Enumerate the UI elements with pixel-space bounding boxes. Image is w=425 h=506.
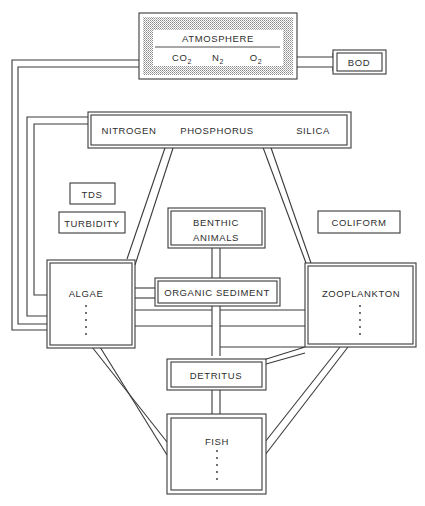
bod-box: BOD (333, 50, 386, 74)
algae-box: ALGAE (47, 260, 135, 348)
coliform-box: COLIFORM (318, 211, 400, 233)
algae-label: ALGAE (69, 288, 104, 299)
bod-label: BOD (348, 57, 370, 68)
ecosystem-diagram: ATMOSPHERE CO2 N2 O2 BOD NITROGEN PHOSPH… (0, 0, 425, 506)
turbidity-box: TURBIDITY (59, 212, 125, 233)
nitrogen-label: NITROGEN (102, 125, 157, 136)
silica-label: SILICA (296, 125, 330, 136)
fish-label: FISH (205, 436, 229, 447)
zooplankton-label: ZOOPLANKTON (322, 288, 400, 299)
detritus-box: DETRITUS (167, 359, 266, 390)
tds-box: TDS (70, 183, 115, 204)
fish-box: FISH (167, 414, 266, 494)
phosphorus-label: PHOSPHORUS (180, 125, 254, 136)
benthic-label: BENTHIC (193, 217, 239, 228)
organic-sediment-box: ORGANIC SEDIMENT (155, 278, 280, 306)
zooplankton-box: ZOOPLANKTON (305, 263, 416, 347)
benthic-animals-box: BENTHIC ANIMALS (168, 208, 265, 248)
nutrients-box: NITROGEN PHOSPHORUS SILICA (88, 112, 351, 148)
tds-label: TDS (82, 189, 103, 200)
animals-label: ANIMALS (193, 232, 239, 243)
detritus-label: DETRITUS (190, 370, 242, 381)
atmosphere-box: ATMOSPHERE CO2 N2 O2 (139, 13, 297, 79)
coliform-label: COLIFORM (332, 217, 387, 228)
atmosphere-label: ATMOSPHERE (182, 33, 254, 44)
turbidity-label: TURBIDITY (64, 218, 120, 229)
organic-sediment-label: ORGANIC SEDIMENT (164, 287, 270, 298)
